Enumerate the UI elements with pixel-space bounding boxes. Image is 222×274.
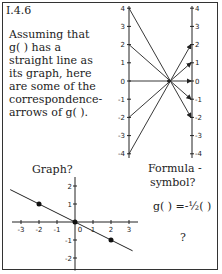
correspondence-arrow: [129, 45, 191, 154]
formula-question: ?: [180, 231, 186, 244]
left-tick-label: -4: [118, 150, 126, 158]
right-tick-label: -2: [195, 114, 202, 122]
graph-title: Graph?: [32, 163, 73, 176]
left-tick-label: -3: [118, 132, 125, 140]
graph-x-tick-label: -2: [36, 226, 43, 234]
left-tick-label: 4: [121, 5, 126, 13]
graph-y-tick-label: -1: [65, 237, 72, 245]
right-tick-label: -1: [195, 96, 202, 104]
graph-y-tick-label: 1: [68, 201, 72, 209]
right-tick-label: 4: [195, 5, 200, 13]
correspondence-arrow: [129, 8, 191, 117]
left-tick-label: -1: [118, 96, 125, 104]
left-tick-label: 1: [121, 59, 125, 67]
graph-x-tick-label: -3: [18, 226, 25, 234]
graph-y-tick-label: 2: [68, 183, 72, 191]
right-tick-label: 2: [195, 41, 199, 49]
right-tick-label: 1: [195, 59, 199, 67]
left-tick-label: -2: [118, 114, 125, 122]
right-tick-label: 0: [195, 78, 199, 86]
intersection-point: [167, 80, 170, 83]
formula-title-line2: symbol?: [150, 176, 195, 189]
correspondence-arrow: [129, 45, 191, 100]
left-tick-label: 0: [121, 78, 125, 86]
graph-point: [73, 220, 78, 225]
correspondence-arrow: [129, 63, 191, 118]
graph-point: [37, 202, 42, 207]
formula-title-line1: Formula -: [148, 162, 202, 175]
left-tick-label: 3: [121, 23, 125, 31]
right-tick-label: -4: [195, 150, 203, 158]
graph-y-tick-label: -2: [65, 255, 72, 263]
graph-x-tick-label: 3: [127, 226, 131, 234]
graph-point: [109, 238, 114, 243]
left-tick-label: 2: [121, 41, 125, 49]
formula-expression: g( ) =-½( ): [153, 200, 211, 213]
graph-x-tick-label: 0: [78, 226, 82, 234]
graph-x-tick-label: -1: [54, 226, 61, 234]
correspondence-arrows-diagram: 4433221100-1-1-2-2-3-3-4-4-3-2-1012321-1…: [0, 0, 222, 274]
graph-x-tick-label: 2: [109, 226, 113, 234]
right-tick-label: -3: [195, 132, 202, 140]
right-tick-label: 3: [195, 23, 199, 31]
